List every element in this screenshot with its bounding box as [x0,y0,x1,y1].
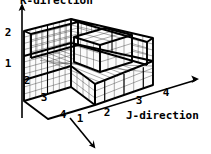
tick-k2: 2 [5,26,12,39]
j-direction-label: J-direction [126,109,199,122]
tick-j1: 1 [77,112,84,125]
grid-diagram: 2 1 2 3 4 1 2 3 4 K-direction J-directio… [0,0,211,154]
tick-j2: 2 [104,106,111,119]
tick-j3: 3 [136,94,143,107]
tick-i2: 2 [24,74,31,87]
tick-j4: 4 [163,86,170,99]
tick-k1: 1 [5,57,12,70]
k-direction-label: K-direction [20,0,93,7]
tick-i3: 3 [41,91,48,104]
tick-i4: 4 [60,108,67,121]
